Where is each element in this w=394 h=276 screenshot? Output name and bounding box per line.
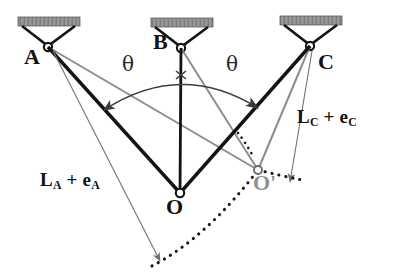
label-support-a: A bbox=[24, 46, 40, 68]
cable-c-to-o bbox=[180, 46, 310, 193]
label-length-a-main2: e bbox=[83, 169, 92, 190]
label-theta-left: θ bbox=[122, 54, 134, 74]
label-length-a: LA + eA bbox=[40, 170, 100, 189]
dotted-motion-curve-upper bbox=[238, 133, 254, 158]
label-length-a-sub1: A bbox=[53, 179, 62, 192]
diagram-canvas: A B C O O' θ θ LA + eA LC + eC bbox=[0, 0, 394, 276]
support-c bbox=[280, 16, 342, 50]
label-length-c-main: L bbox=[297, 106, 310, 127]
label-length-c: LC + eC bbox=[297, 107, 357, 126]
label-length-c-main2: e bbox=[340, 106, 349, 127]
support-a-ground-bar bbox=[18, 17, 80, 26]
label-length-c-sub2: C bbox=[348, 116, 357, 129]
diagram-svg bbox=[0, 0, 394, 276]
label-support-b: B bbox=[153, 31, 168, 53]
dimension-arrow-la bbox=[53, 51, 160, 261]
cable-b-to-o bbox=[180, 48, 181, 193]
label-length-a-sub2: A bbox=[91, 179, 100, 192]
label-length-a-operator: + bbox=[62, 169, 83, 190]
label-length-a-main: L bbox=[40, 169, 53, 190]
label-node-oprime: O' bbox=[253, 172, 276, 194]
cable-b-to-oprime bbox=[181, 48, 258, 170]
support-b-ground-bar bbox=[151, 18, 213, 27]
label-length-c-operator: + bbox=[319, 106, 340, 127]
label-theta-right: θ bbox=[226, 54, 238, 74]
support-c-ground-bar bbox=[280, 16, 342, 25]
label-support-c: C bbox=[318, 51, 334, 73]
label-length-c-sub1: C bbox=[310, 116, 319, 129]
label-node-o: O bbox=[166, 196, 183, 218]
